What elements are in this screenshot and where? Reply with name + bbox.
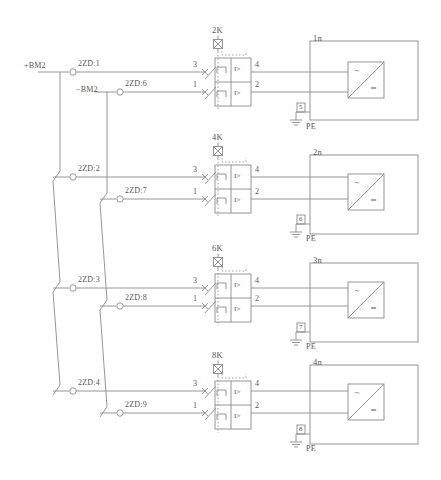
supply-negative-bus (100, 92, 107, 417)
pe-terminal-number-3n: 7 (299, 324, 303, 331)
breaker-terminal-out-4K-0: 4 (255, 166, 259, 174)
contact-blade-2K-1 (205, 87, 216, 99)
breaker-label-6K: 6K (212, 244, 223, 253)
module-label-2n: 2n (313, 148, 322, 157)
rectifier-ac-symbol-2n: ∼ (354, 180, 360, 187)
terminal-label-2ZD:8: 2ZD:8 (125, 294, 147, 302)
breaker-label-4K: 4K (212, 133, 223, 142)
module-box-1n (310, 41, 418, 120)
overcurrent-marking-8K-2: I> (234, 413, 241, 420)
module-label-3n: 3n (313, 256, 322, 265)
terminal-label-2ZD:2: 2ZD:2 (78, 165, 100, 173)
terminal-label-2ZD:9: 2ZD:9 (125, 401, 147, 409)
breaker-terminal-in-4K-1: 1 (193, 188, 197, 196)
rectifier-dc-symbol-2n: ═ (371, 197, 376, 204)
breaker-terminal-out-8K-1: 2 (255, 402, 259, 410)
terminal-2ZD:7[interactable] (117, 196, 123, 202)
terminal-2ZD:2[interactable] (70, 174, 76, 180)
contact-blade-4K-0 (205, 172, 216, 184)
terminal-label-2ZD:3: 2ZD:3 (78, 276, 100, 284)
pe-terminal-number-1n: 5 (299, 104, 303, 111)
terminal-2ZD:6[interactable] (117, 89, 123, 95)
pe-label-1n: PE (306, 123, 316, 131)
contact-blade-2K-0 (205, 67, 216, 79)
rectifier-dc-symbol-3n: ═ (371, 305, 376, 312)
pe-label-4n: PE (306, 445, 316, 453)
breaker-terminal-out-6K-1: 2 (255, 295, 259, 303)
breaker-terminal-out-2K-0: 4 (255, 61, 259, 69)
terminal-label-2ZD:7: 2ZD:7 (125, 187, 147, 195)
module-label-1n: 1n (313, 34, 322, 43)
supply-positive-label: +BM2 (24, 62, 46, 70)
breaker-terminal-in-6K-1: 1 (193, 295, 197, 303)
supply-negative-label: −BM2 (76, 86, 98, 94)
terminal-2ZD:1[interactable] (70, 69, 76, 75)
pe-label-3n: PE (306, 343, 316, 351)
breaker-terminal-out-4K-1: 2 (255, 188, 259, 196)
breaker-terminal-in-4K-0: 3 (193, 166, 197, 174)
overcurrent-marking-4K-2: I> (234, 197, 241, 204)
overcurrent-marking-2K-2: I> (234, 90, 241, 97)
rectifier-dc-symbol-1n: ═ (371, 85, 376, 92)
terminal-2ZD:9[interactable] (117, 410, 123, 416)
breaker-terminal-out-8K-0: 4 (255, 380, 259, 388)
contact-blade-8K-0 (205, 386, 216, 398)
breaker-terminal-in-8K-1: 1 (193, 402, 197, 410)
rectifier-ac-symbol-1n: ∼ (354, 68, 360, 75)
terminal-2ZD:8[interactable] (117, 303, 123, 309)
tie-bar-4K (222, 158, 246, 162)
pe-terminal-number-4n: 8 (299, 426, 303, 433)
tie-bar-8K (222, 374, 246, 378)
terminal-layer (70, 69, 123, 416)
rectifier-dc-symbol-4n: ═ (371, 407, 376, 414)
breaker-terminal-in-2K-0: 3 (193, 61, 197, 69)
rectifier-ac-symbol-3n: ∼ (354, 288, 360, 295)
contact-blade-6K-0 (205, 283, 216, 295)
tie-bar-2K (222, 51, 246, 55)
breaker-label-2K: 2K (212, 26, 223, 35)
pe-label-2n: PE (306, 235, 316, 243)
overcurrent-marking-6K-1: I> (234, 282, 241, 289)
pe-terminal-number-2n: 6 (299, 216, 303, 223)
terminal-label-2ZD:1: 2ZD:1 (78, 60, 100, 68)
overcurrent-marking-2K-1: I> (234, 66, 241, 73)
terminal-2ZD:3[interactable] (70, 285, 76, 291)
breaker-terminal-in-6K-0: 3 (193, 277, 197, 285)
terminal-2ZD:4[interactable] (70, 388, 76, 394)
module-label-4n: 4n (313, 358, 322, 367)
contact-blade-6K-1 (205, 301, 216, 313)
tie-bar-6K (222, 267, 246, 271)
breaker-terminal-in-2K-1: 1 (193, 81, 197, 89)
supply-positive-bus (53, 72, 60, 395)
overcurrent-marking-8K-1: I> (234, 389, 241, 396)
terminal-label-2ZD:4: 2ZD:4 (78, 379, 100, 387)
overcurrent-marking-4K-1: I> (234, 173, 241, 180)
rectifier-ac-symbol-4n: ∼ (354, 390, 360, 397)
contact-blade-8K-1 (205, 408, 216, 420)
terminal-label-2ZD:6: 2ZD:6 (125, 80, 147, 88)
breaker-terminal-out-6K-0: 4 (255, 277, 259, 285)
breaker-terminal-in-8K-0: 3 (193, 380, 197, 388)
contact-blade-4K-1 (205, 194, 216, 206)
schematic-sheet: +BM2 −BM2 2ZD:12ZD:22ZD:32ZD:42ZD:62ZD:7… (0, 0, 441, 480)
breaker-terminal-out-2K-1: 2 (255, 81, 259, 89)
overcurrent-marking-6K-2: I> (234, 306, 241, 313)
breaker-label-8K: 8K (212, 351, 223, 360)
